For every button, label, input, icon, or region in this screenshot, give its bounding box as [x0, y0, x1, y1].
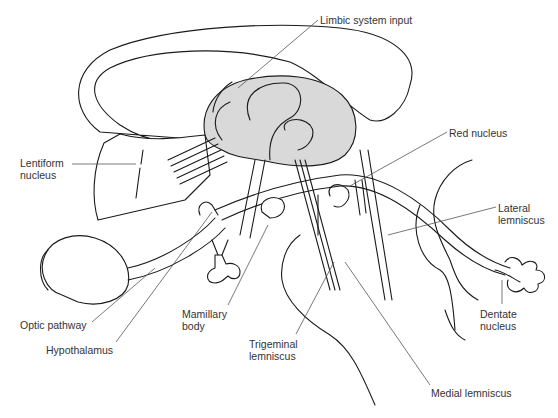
- dentate-nucleus-shape: [505, 258, 545, 293]
- label-medial-lemniscus: Medial lemniscus: [431, 387, 512, 399]
- label-red-nucleus: Red nucleus: [449, 127, 507, 139]
- label-dentate-nucleus: Dentate nucleus: [480, 308, 517, 332]
- label-trigeminal-lemniscus: Trigeminal lemniscus: [249, 338, 298, 362]
- cerebellum-outline: [434, 160, 478, 300]
- mamillary-body-shape: [261, 198, 284, 218]
- diagram-canvas: Limbic system input Red nucleus Lentifor…: [0, 0, 558, 418]
- label-lentiform-nucleus: Lentiform nucleus: [20, 157, 64, 181]
- thalamus-shape: [204, 76, 356, 166]
- label-limbic-system-input: Limbic system input: [320, 14, 412, 26]
- brainstem-outline: [282, 235, 375, 405]
- label-hypothalamus: Hypothalamus: [46, 344, 113, 356]
- label-optic-pathway: Optic pathway: [20, 319, 87, 331]
- label-lateral-lemniscus: Lateral lemniscus: [498, 202, 545, 226]
- red-nucleus-shape: [329, 185, 349, 207]
- label-mamillary-body: Mamillary body: [182, 308, 227, 332]
- pituitary-shape: [208, 255, 241, 283]
- lentiform-nucleus-shape: [94, 134, 210, 220]
- eye-globe-shape: [42, 236, 128, 304]
